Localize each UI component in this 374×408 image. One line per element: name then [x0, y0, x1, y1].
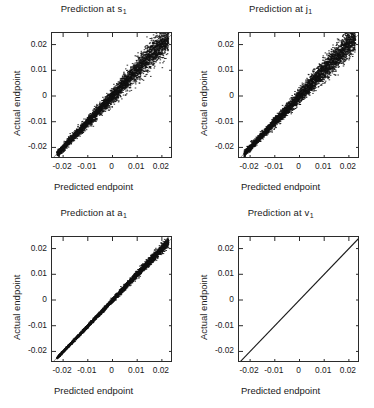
- y-tick-label: -0.01: [19, 320, 47, 330]
- y-tick-label: 0: [19, 90, 47, 100]
- plot-area: [51, 32, 172, 158]
- scatter-points: [57, 33, 169, 158]
- figure-scatter-grid: Prediction at s1-0.02-0.0100.010.020.020…: [0, 0, 374, 408]
- x-tick-label: 0.01: [128, 161, 144, 171]
- plot-area: [238, 32, 359, 158]
- panel-title-subscript: 1: [310, 212, 314, 219]
- y-tick-label: 0.02: [19, 39, 47, 49]
- x-tick-label: 0.01: [315, 161, 331, 171]
- plot-canvas: [52, 237, 172, 362]
- identity-line: [239, 237, 359, 362]
- x-axis-label: Predicted endpoint: [0, 181, 187, 192]
- y-tick-label: 0.02: [19, 243, 47, 253]
- plot-area: [51, 236, 172, 362]
- x-tick-label: -0.02: [53, 161, 72, 171]
- x-tick-label: 0.02: [153, 161, 169, 171]
- x-tick-label: 0.02: [340, 365, 356, 375]
- y-axis-label: Actual endpoint: [198, 71, 209, 137]
- x-tick-label: 0: [296, 365, 301, 375]
- panel-1: Prediction at s1-0.02-0.0100.010.020.020…: [0, 0, 187, 204]
- x-tick-label: -0.02: [53, 365, 72, 375]
- panel-2: Prediction at j1-0.02-0.0100.010.020.020…: [187, 0, 374, 204]
- y-tick-label: -0.01: [206, 320, 234, 330]
- x-tick-label: 0.01: [128, 365, 144, 375]
- x-tick-label: 0.02: [340, 161, 356, 171]
- y-tick-label: 0: [206, 90, 234, 100]
- x-tick-label: 0.02: [153, 365, 169, 375]
- panel-title: Prediction at v1: [187, 207, 374, 218]
- x-tick-label: -0.01: [77, 365, 96, 375]
- y-tick-label: -0.02: [19, 141, 47, 151]
- x-tick-label: -0.02: [240, 161, 259, 171]
- y-tick-label: 0.02: [206, 39, 234, 49]
- x-axis-label: Predicted endpoint: [0, 385, 187, 396]
- y-tick-label: 0.01: [206, 64, 234, 74]
- x-tick-label: -0.01: [264, 161, 283, 171]
- y-tick-label: 0.02: [206, 243, 234, 253]
- x-axis-label: Predicted endpoint: [187, 181, 374, 192]
- x-axis-label: Predicted endpoint: [187, 385, 374, 396]
- panel-title: Prediction at a1: [0, 207, 187, 218]
- plot-canvas: [239, 33, 359, 158]
- y-tick-label: 0: [19, 294, 47, 304]
- panel-title: Prediction at s1: [0, 3, 187, 14]
- panel-title-subscript: 1: [123, 212, 127, 219]
- x-tick-label: 0: [296, 161, 301, 171]
- y-axis-label: Actual endpoint: [11, 71, 22, 137]
- x-tick-label: -0.01: [264, 365, 283, 375]
- scatter-points: [244, 33, 356, 157]
- x-tick-label: 0.01: [315, 365, 331, 375]
- x-tick-label: -0.01: [77, 161, 96, 171]
- x-tick-label: 0: [109, 161, 114, 171]
- y-tick-label: -0.01: [206, 116, 234, 126]
- y-tick-label: 0: [206, 294, 234, 304]
- x-tick-label: 0: [109, 365, 114, 375]
- panel-title-subscript: 1: [308, 8, 312, 15]
- scatter-points: [57, 238, 169, 359]
- panel-3: Prediction at a1-0.02-0.0100.010.020.020…: [0, 204, 187, 408]
- y-tick-label: 0.01: [19, 268, 47, 278]
- plot-canvas: [239, 237, 359, 362]
- y-tick-label: 0.01: [19, 64, 47, 74]
- y-tick-label: 0.01: [206, 268, 234, 278]
- x-tick-label: -0.02: [240, 365, 259, 375]
- y-axis-label: Actual endpoint: [198, 275, 209, 341]
- panel-4: Prediction at v1-0.02-0.0100.010.020.020…: [187, 204, 374, 408]
- y-tick-label: -0.01: [19, 116, 47, 126]
- panel-title-subscript: 1: [123, 8, 127, 15]
- y-tick-label: -0.02: [19, 345, 47, 355]
- plot-canvas: [52, 33, 172, 158]
- y-axis-label: Actual endpoint: [11, 275, 22, 341]
- plot-area: [238, 236, 359, 362]
- y-tick-label: -0.02: [206, 345, 234, 355]
- y-tick-label: -0.02: [206, 141, 234, 151]
- panel-title: Prediction at j1: [187, 3, 374, 14]
